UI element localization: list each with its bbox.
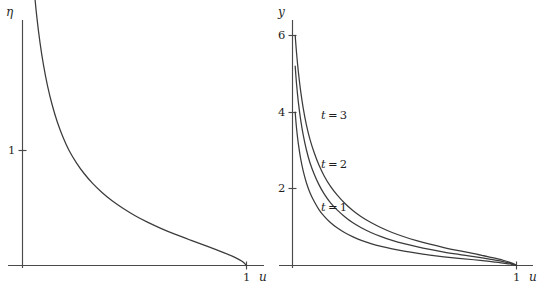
right-plot-panel: y u 6 4 2 1 t = 3 t = 2 t = 1 xyxy=(271,0,542,293)
curve-label-t3: t = 3 xyxy=(321,110,347,122)
curve-label-t2: t = 2 xyxy=(321,159,347,171)
right-y-tick-label-6: 6 xyxy=(278,30,285,42)
left-plot-panel: η u 1 1 xyxy=(0,0,271,293)
left-y-tick-label-1: 1 xyxy=(8,145,15,157)
left-x-axis-label: u xyxy=(259,271,267,283)
right-data-curve-t3 xyxy=(295,36,516,266)
right-data-curve-t1 xyxy=(295,112,516,265)
curve-label-t2-value: = 2 xyxy=(326,157,348,171)
left-y-axis-label: η xyxy=(6,6,13,18)
right-x-tick-label-1: 1 xyxy=(513,272,520,284)
right-y-axis-label: y xyxy=(278,6,285,18)
right-y-tick-label-4: 4 xyxy=(278,107,285,119)
right-y-tick-label-2: 2 xyxy=(278,183,285,195)
curve-label-t1-value: = 1 xyxy=(326,200,348,214)
left-data-curve xyxy=(25,0,246,265)
figure-root: η u 1 1 y u 6 4 2 1 t = 3 t = 2 xyxy=(0,0,542,293)
left-x-tick-label-1: 1 xyxy=(243,272,250,284)
right-plot-svg xyxy=(271,0,542,293)
left-plot-svg xyxy=(0,0,271,293)
curve-label-t3-value: = 3 xyxy=(326,108,348,122)
right-x-axis-label: u xyxy=(529,271,537,283)
curve-label-t1: t = 1 xyxy=(321,202,347,214)
